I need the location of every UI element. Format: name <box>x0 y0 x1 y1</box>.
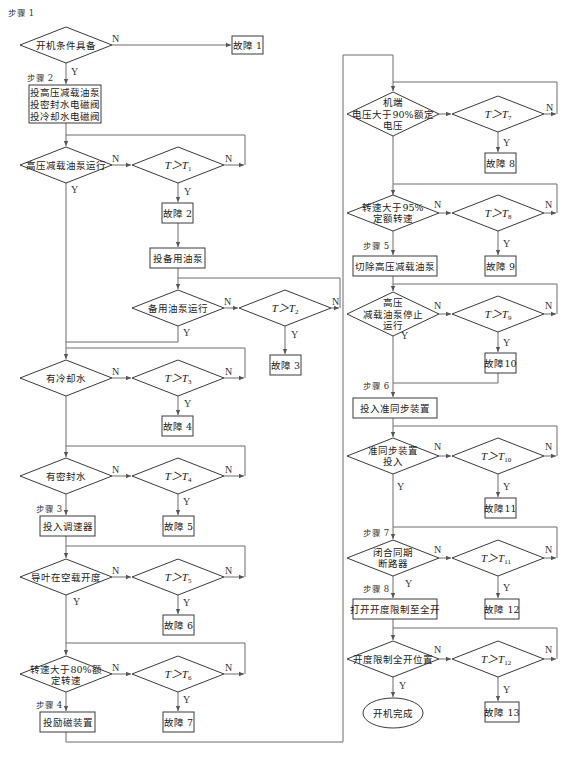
svg-text:N: N <box>434 199 441 210</box>
svg-text:Y: Y <box>503 238 510 249</box>
svg-text:开度限制全开位置: 开度限制全开位置 <box>353 654 433 665</box>
svg-text:电压: 电压 <box>383 120 403 131</box>
svg-text:Y: Y <box>71 184 78 195</box>
svg-text:投入调速器: 投入调速器 <box>43 521 93 532</box>
svg-text:N: N <box>332 296 339 307</box>
svg-text:N: N <box>112 464 119 475</box>
svg-text:转速大于80%额: 转速大于80%额 <box>30 664 101 675</box>
step-6-label: 步骤 6 <box>363 381 389 391</box>
svg-text:Y: Y <box>183 496 190 507</box>
timer-t7: T＞T7 <box>452 96 544 132</box>
svg-text:Y: Y <box>183 597 190 608</box>
svg-text:Y: Y <box>503 684 510 695</box>
svg-text:N: N <box>546 102 553 113</box>
svg-text:N: N <box>545 300 552 311</box>
svg-text:准同步装置: 准同步装置 <box>368 445 418 456</box>
fault-2-box: 故障 2 <box>162 203 193 223</box>
svg-text:N: N <box>545 644 552 655</box>
svg-text:N: N <box>434 441 441 452</box>
svg-text:Y: Y <box>397 481 404 492</box>
decision-speed-80pct: 转速大于80%额 定转速 <box>20 656 112 692</box>
process-sync-device-box: 投入准同步装置 <box>353 398 437 418</box>
svg-text:N: N <box>545 199 552 210</box>
timer-t4: T＞T4 <box>132 458 224 494</box>
svg-text:N: N <box>112 153 119 164</box>
decision-terminal-voltage-90pct: 机端 电压大于90%额定 电压 <box>347 92 439 136</box>
svg-text:开机条件具备: 开机条件具备 <box>36 40 96 51</box>
svg-text:Y: Y <box>503 337 510 348</box>
svg-text:电压大于90%额定: 电压大于90%额定 <box>352 109 433 120</box>
step-2-label: 步骤 2 <box>27 73 53 83</box>
svg-text:有冷却水: 有冷却水 <box>46 373 86 384</box>
fault-11-box: 故障11 <box>484 498 516 518</box>
svg-text:投备用油泵: 投备用油泵 <box>153 253 203 264</box>
svg-text:高压减载油泵运行: 高压减载油泵运行 <box>26 160 106 171</box>
process-open-limit-box: 打开开度限制至全开 <box>350 599 440 619</box>
svg-text:T＞T3: T＞T3 <box>165 372 192 386</box>
decision-limit-full-open: 开度限制全开位置 <box>347 641 439 677</box>
svg-text:T＞T4: T＞T4 <box>165 470 192 484</box>
svg-text:故障 4: 故障 4 <box>163 421 192 432</box>
timer-t9: T＞T9 <box>452 296 544 332</box>
branch-labels: N Y N N Y Y N N Y Y N N Y N N Y N N Y Y … <box>71 33 553 705</box>
decision-close-breaker: 闭合同期 断路器 <box>347 540 439 576</box>
svg-text:Y: Y <box>183 327 190 338</box>
terminal-startup-complete: 开机完成 <box>363 698 423 728</box>
svg-text:Y: Y <box>183 694 190 705</box>
left-connectors <box>66 45 393 742</box>
svg-text:T＞T2: T＞T2 <box>272 302 299 316</box>
fault-3-box: 故障 3 <box>270 355 301 375</box>
svg-text:Y: Y <box>503 137 510 148</box>
decision-startup-conditions: 开机条件具备 <box>20 27 112 63</box>
fault-1-box: 故障 1 <box>232 36 263 54</box>
decision-sync-device-on: 准同步装置 投入 <box>347 438 439 474</box>
svg-text:打开开度限制至全开: 打开开度限制至全开 <box>350 604 440 615</box>
svg-text:切除高压减载油泵: 切除高压减载油泵 <box>355 261 435 272</box>
svg-text:故障 3: 故障 3 <box>271 360 300 371</box>
svg-text:投高压减载油泵: 投高压减载油泵 <box>30 87 100 98</box>
process-excitation-box: 投励磁装置 <box>40 712 95 732</box>
svg-text:投冷却水电磁阀: 投冷却水电磁阀 <box>30 111 100 122</box>
svg-text:Y: Y <box>184 398 191 409</box>
svg-text:断路器: 断路器 <box>378 558 408 569</box>
fault-13-box: 故障 13 <box>484 702 519 722</box>
step-7-label: 步骤 7 <box>363 528 389 538</box>
svg-text:N: N <box>112 662 119 673</box>
svg-text:N: N <box>112 565 119 576</box>
svg-text:Y: Y <box>503 481 510 492</box>
svg-text:Y: Y <box>503 582 510 593</box>
svg-text:运行: 运行 <box>383 320 403 331</box>
svg-text:N: N <box>545 544 552 555</box>
fault-10-box: 故障10 <box>484 353 516 373</box>
svg-text:N: N <box>225 464 232 475</box>
fault-8-box: 故障 8 <box>485 153 516 173</box>
fault-7-box: 故障 7 <box>163 712 194 732</box>
svg-text:N: N <box>225 565 232 576</box>
timer-t6: T＞T6 <box>132 656 224 692</box>
svg-text:Y: Y <box>73 596 80 607</box>
svg-text:故障 7: 故障 7 <box>164 717 193 728</box>
decision-backup-pump-running: 备用油泵运行 <box>132 290 224 326</box>
decision-speed-95pct: 转速大于95% 定额转速 <box>347 195 439 231</box>
svg-text:故障 8: 故障 8 <box>486 158 515 169</box>
svg-text:导叶在空载开度: 导叶在空载开度 <box>31 572 101 583</box>
svg-text:T＞T7: T＞T7 <box>485 108 512 122</box>
svg-text:投密封水电磁阀: 投密封水电磁阀 <box>30 99 100 110</box>
svg-text:N: N <box>434 644 441 655</box>
process-backup-pump-box: 投备用油泵 <box>150 248 205 268</box>
svg-text:Y: Y <box>401 330 408 341</box>
fault-12-box: 故障 12 <box>484 599 519 619</box>
startup-flowchart: 步骤 1 步骤 2 步骤 3 步骤 4 步骤 5 步骤 6 步骤 7 步骤 8 … <box>0 0 577 760</box>
process-step2-box: 投高压减载油泵 投密封水电磁阀 投冷却水电磁阀 <box>29 85 101 123</box>
svg-text:T＞T8: T＞T8 <box>485 207 512 221</box>
svg-text:故障 12: 故障 12 <box>484 604 519 615</box>
svg-text:定转速: 定转速 <box>51 675 81 686</box>
svg-text:故障 6: 故障 6 <box>164 620 193 631</box>
process-governor-box: 投入调速器 <box>40 516 95 536</box>
svg-text:投励磁装置: 投励磁装置 <box>43 717 93 728</box>
timer-t1: T＞T1 <box>132 147 224 183</box>
timer-t11: T＞T11 <box>452 540 544 576</box>
svg-text:Y: Y <box>291 329 298 340</box>
decision-seal-water: 有密封水 <box>20 458 112 494</box>
fault-4-box: 故障 4 <box>162 416 193 436</box>
